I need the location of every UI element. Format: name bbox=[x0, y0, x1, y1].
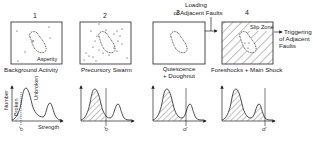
stage-3-box bbox=[153, 22, 205, 64]
asperity-label: Asperity bbox=[37, 56, 57, 62]
loading-arrow: Loading of Adjacent Faults bbox=[173, 1, 222, 31]
swarm-events bbox=[83, 23, 127, 61]
stress-symbol: σ̄ bbox=[183, 125, 188, 132]
stage-4-caption: Foreshocks + Main Shock bbox=[211, 66, 283, 73]
slip-zone-label: Slip Zone bbox=[250, 24, 274, 30]
strength-distribution-graph-4: σ̄ bbox=[222, 86, 275, 132]
triggering-label-3: Faults bbox=[279, 42, 296, 49]
x-axis-label: Strength bbox=[38, 124, 59, 130]
stage-4-number: 4 bbox=[245, 9, 249, 16]
stage-2-number: 2 bbox=[103, 12, 107, 19]
triggering-label-1: Triggering bbox=[284, 28, 312, 35]
strength-distribution-graph-1: Number Broken Unbroken Strength σ̄ bbox=[3, 76, 63, 131]
stage-3-panel: 3 Quiescence + Doughnut bbox=[153, 9, 205, 79]
stage-2-box bbox=[80, 22, 131, 64]
loading-label-1: Loading bbox=[185, 1, 208, 8]
stress-symbol: σ̄ bbox=[102, 126, 109, 131]
asperity-outline bbox=[99, 32, 115, 53]
stage-2-caption: Precursory Swarm bbox=[81, 66, 132, 73]
strength-distribution-graph-3: σ̄ bbox=[153, 86, 206, 132]
asperity-outline bbox=[30, 32, 46, 53]
stage-4-panel: 4 Slip Zone Foreshocks + Main Shock bbox=[211, 9, 283, 73]
y-axis-label: Number bbox=[3, 90, 9, 110]
stress-symbol: σ̄ bbox=[17, 126, 24, 131]
asperity-outline bbox=[171, 32, 187, 53]
stage-3-caption-2: + Doughnut bbox=[163, 72, 195, 79]
stage-1-number: 1 bbox=[33, 12, 37, 19]
triggering-arrow: Triggering of Adjacent Faults bbox=[274, 28, 312, 49]
earthquake-stages-diagram: 1 Asperity Background Activity 2 bbox=[0, 0, 313, 142]
loading-label-2: of Adjacent Faults bbox=[173, 9, 222, 16]
stage-3-number: 3 bbox=[176, 9, 180, 16]
stage-1-caption: Background Activity bbox=[4, 66, 59, 73]
stage-2-panel: 2 Precursory Swarm bbox=[80, 12, 132, 73]
stage-3-caption-1: Quiescence bbox=[163, 65, 196, 72]
broken-label: Broken bbox=[13, 98, 19, 116]
stress-symbol: σ̄ bbox=[262, 125, 267, 132]
triggering-label-2: of Adjacent bbox=[279, 35, 310, 42]
strength-distribution-graph-2: σ̄ bbox=[81, 86, 134, 131]
unbroken-label: Unbroken bbox=[33, 76, 39, 100]
stage-1-panel: 1 Asperity Background Activity bbox=[4, 12, 62, 73]
